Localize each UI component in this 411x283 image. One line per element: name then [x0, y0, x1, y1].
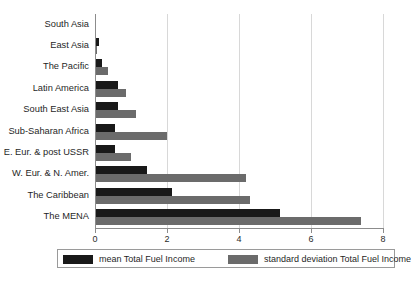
bar-mean: [96, 124, 115, 132]
x-tick-label: 6: [296, 234, 326, 245]
x-tick-mark: [167, 229, 168, 233]
category-label: Sub-Saharan Africa: [0, 126, 89, 137]
bar-mean: [96, 209, 280, 217]
legend-label-sd: standard deviation Total Fuel Income: [264, 254, 411, 265]
category-label: South East Asia: [0, 104, 89, 115]
chart-row: Sub-Saharan Africa: [0, 121, 400, 142]
chart-row: South Asia: [0, 14, 400, 35]
legend-label-mean: mean Total Fuel Income: [99, 254, 195, 265]
x-tick-mark: [95, 229, 96, 233]
chart-row: W. Eur. & N. Amer.: [0, 164, 400, 185]
chart-row: The Caribbean: [0, 185, 400, 206]
bar-standard-deviation: [96, 89, 126, 97]
x-tick-label: 8: [368, 234, 398, 245]
bar-standard-deviation: [96, 196, 250, 204]
legend-entry-mean: mean Total Fuel Income: [63, 253, 195, 265]
x-tick-mark: [239, 229, 240, 233]
x-tick-mark: [311, 229, 312, 233]
bar-mean: [96, 59, 102, 67]
chart-row: E. Eur. & post USSR: [0, 142, 400, 163]
category-label: East Asia: [0, 40, 89, 51]
chart-row: The Pacific: [0, 57, 400, 78]
chart-row: East Asia: [0, 35, 400, 56]
bar-mean: [96, 166, 147, 174]
legend-swatch-sd: [228, 255, 258, 264]
bar-standard-deviation: [96, 174, 246, 182]
x-tick-label: 4: [224, 234, 254, 245]
bar-mean: [96, 81, 118, 89]
legend-swatch-mean: [63, 255, 93, 264]
bar-standard-deviation: [96, 153, 131, 161]
category-label: The Pacific: [0, 61, 89, 72]
bar-standard-deviation: [96, 67, 108, 75]
legend-entry-sd: standard deviation Total Fuel Income: [228, 253, 411, 265]
category-label: E. Eur. & post USSR: [0, 147, 89, 158]
category-label: The Caribbean: [0, 190, 89, 201]
x-tick-label: 2: [152, 234, 182, 245]
bar-standard-deviation: [96, 46, 97, 54]
bar-standard-deviation: [96, 110, 136, 118]
category-label: Latin America: [0, 83, 89, 94]
category-label: W. Eur. & N. Amer.: [0, 168, 89, 179]
bar-mean: [96, 102, 118, 110]
category-label: South Asia: [0, 19, 89, 30]
chart-legend: mean Total Fuel Income standard deviatio…: [57, 249, 395, 268]
chart-row: The MENA: [0, 207, 400, 228]
bar-standard-deviation: [96, 132, 167, 140]
bar-mean: [96, 145, 115, 153]
chart-row: South East Asia: [0, 100, 400, 121]
x-tick-mark: [383, 229, 384, 233]
x-tick-label: 0: [80, 234, 110, 245]
bar-mean: [96, 188, 172, 196]
category-label: The MENA: [0, 211, 89, 222]
chart-row: Latin America: [0, 78, 400, 99]
bar-mean: [96, 38, 99, 46]
bar-standard-deviation: [96, 217, 361, 225]
